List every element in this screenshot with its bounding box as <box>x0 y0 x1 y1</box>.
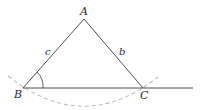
vertex-c-label: C <box>140 89 149 102</box>
construction-arc <box>8 76 158 106</box>
vertex-a-label: A <box>79 5 88 18</box>
side-b-label: b <box>119 46 125 57</box>
angle-b-marker <box>37 72 43 88</box>
side-c-label: c <box>45 46 51 57</box>
vertex-b-label: B <box>13 88 22 101</box>
side-b <box>84 19 143 88</box>
triangle-diagram: A B C c b <box>0 0 202 110</box>
side-c <box>23 19 84 88</box>
